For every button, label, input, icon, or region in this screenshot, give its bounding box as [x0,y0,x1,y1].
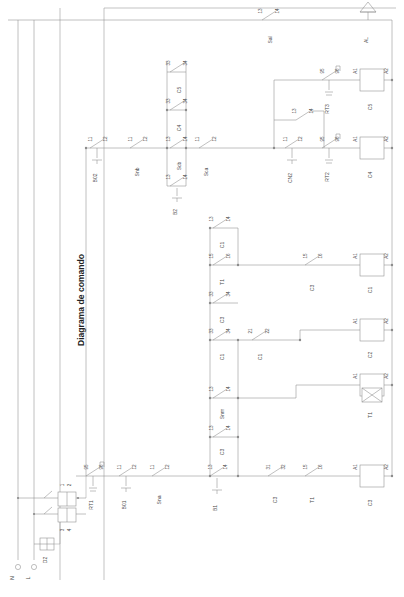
contact-terminal-right: 14 [183,174,188,180]
contact-device-snm: Snm [219,409,225,419]
contact-terminal-left: 33 [209,291,214,297]
branch-terminal-13: 13 [292,108,297,114]
contact-terminal-right: 96 [335,136,340,142]
disconnect-terminal-1: 1 [60,483,65,486]
contact-terminal-left: 13 [209,425,214,431]
contact-device-b1: B1 [212,505,218,511]
alarm-device-label: AL [363,37,369,43]
contact-terminal-left: 13 [209,216,214,222]
coil-terminal-a2: A2 [384,136,389,142]
contact-terminal-right: 16 [318,253,323,259]
contact-terminal-left: 15 [303,464,308,470]
contact-terminal-right: 34 [183,98,188,104]
terminal-neutral-label: N [9,576,15,580]
contact-device-c3: C3 [309,285,315,292]
rung-c4-coil [274,111,393,164]
rung-c1-33-34 [209,319,393,341]
contact-terminal-right: 12 [212,136,217,142]
coil-terminal-a1: A1 [353,136,358,142]
contact-terminal-left: 13 [166,174,171,180]
contact-device-snb: Snb [134,167,140,176]
contact-device-rt3: RT3 [324,104,330,114]
contact-terminal-right: 34 [226,291,231,297]
contact-terminal-right: 14 [183,136,188,142]
contact-terminal-right: 34 [183,60,188,66]
contact-device-sna: Sna [156,495,162,504]
branch-terminal-14: 14 [309,108,314,114]
contact-terminal-right: 96 [99,464,104,470]
contact-device-t1: T1 [309,497,315,503]
contact-terminal-left: 11 [195,136,200,141]
contact-terminal-left: 15 [209,253,214,259]
contact-device-c4: C4 [176,125,182,132]
contact-device-c3: C3 [219,449,225,456]
contact-terminal-left: 11 [150,464,155,469]
contact-terminal-right: 12 [143,136,148,142]
contact-terminal-left: 21 [248,328,253,334]
fuse-d2 [34,520,60,550]
coil-terminal-a1: A1 [353,318,358,324]
contact-device-c1: C1 [219,242,225,249]
coil-label-c3: C3 [367,500,373,507]
contact-terminal-right: 14 [226,216,231,222]
contact-terminal-right: 12 [132,464,137,470]
contact-terminal-left: 11 [283,136,288,141]
contact-terminal-left: 13 [258,8,263,14]
contact-device-sal: Sal [267,36,273,43]
contact-terminal-left: 15 [303,253,308,259]
coil-terminal-a1: A1 [353,253,358,259]
rung-t1-15-16 [209,254,393,276]
contact-terminal-right: 12 [103,136,108,142]
contact-device-c1: C1 [219,354,225,361]
contact-terminal-left: 33 [209,328,214,334]
contact-terminal-right: 14 [226,425,231,431]
coil-terminal-a2: A2 [384,373,389,379]
diagram-canvas: Diagrama de comando N L D2 1 2 3 [0,0,404,597]
contact-terminal-right: 16 [226,253,231,259]
disconnect-switch [17,476,86,522]
coil-terminal-a2: A2 [384,253,389,259]
disconnect-terminal-4: 4 [67,528,72,531]
contact-terminal-left: 11 [128,136,133,141]
contact-terminal-right: 96 [335,68,340,74]
contact-terminal-left: 33 [166,98,171,104]
contact-device-c3: C3 [272,497,278,504]
contact-device-t1: T1 [219,279,225,285]
contact-device-cn2: CN2 [287,173,293,183]
contact-device-b02: B02 [92,173,98,182]
contact-device-b01: B01 [121,500,127,509]
page-title: Diagrama de comando [76,254,86,346]
coil-label-c1: C1 [367,287,373,294]
disconnect-terminal-2: 2 [67,483,72,486]
contact-terminal-right: 16 [318,464,323,470]
rung-bottom [76,20,393,494]
coil-terminal-a1: A1 [353,373,358,379]
contact-device-scb: Scb [176,161,182,170]
supply-rails [15,20,36,570]
fuse-label: D2 [42,557,48,564]
coil-terminal-a1: A1 [353,464,358,470]
contact-terminal-right: 32 [281,464,286,470]
coil-label-c2: C2 [367,352,373,359]
contact-terminal-left: 33 [166,60,171,66]
contact-terminal-left: 13 [208,464,213,470]
contact-terminal-right: 14 [226,386,231,392]
coil-terminal-a2: A2 [384,68,389,74]
coil-terminal-a2: A2 [384,464,389,470]
contact-terminal-right: 14 [223,464,228,470]
contact-terminal-right: 14 [275,8,280,14]
rung-alarm [8,2,392,20]
contact-device-b2: B2 [172,209,178,215]
contact-terminal-left: 95 [320,136,325,142]
coil-label-c5: C5 [367,104,373,111]
contact-device-c5: C5 [176,87,182,94]
coil-terminal-a2: A2 [384,318,389,324]
contact-terminal-left: 95 [84,464,89,470]
contact-device-sca: Sca [203,167,209,176]
coil-label-t1: T1 [367,412,373,418]
contact-terminal-left: 31 [266,464,271,470]
terminal-phase-label: L [25,577,31,580]
contact-device-c3: C3 [219,317,225,324]
contact-device-rt1: RT1 [88,500,94,510]
disconnect-terminal-3: 3 [60,528,65,531]
